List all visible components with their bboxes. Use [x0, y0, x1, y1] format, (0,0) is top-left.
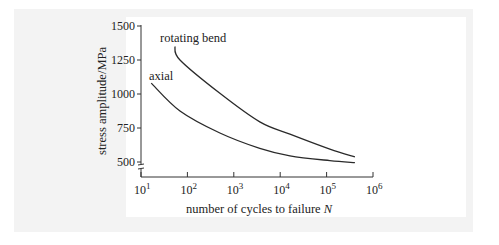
sn-curve-chart: 500750100012501500101102103104105106 rot… — [0, 0, 499, 245]
y-tick-label: 750 — [117, 121, 135, 135]
x-axis-label: number of cycles to failure N — [186, 202, 333, 216]
plot-area — [126, 17, 466, 217]
y-tick-label: 1250 — [111, 53, 135, 67]
label-axial: axial — [149, 69, 174, 83]
y-tick-label: 1500 — [111, 19, 135, 33]
y-axis-label: stress amplitude/MPa — [95, 47, 109, 155]
label-rotating-bend: rotating bend — [160, 31, 227, 45]
y-tick-label: 1000 — [111, 87, 135, 101]
y-tick-label: 500 — [117, 155, 135, 169]
